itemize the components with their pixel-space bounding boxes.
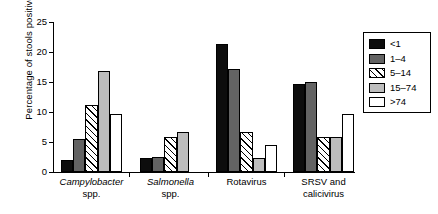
legend-item: 1–4 [369,52,430,67]
x-axis-line [53,172,355,173]
y-tick-mark [49,22,53,23]
legend-swatch [369,54,385,64]
bar [317,137,329,172]
bar [177,132,189,172]
bar [240,132,252,172]
y-tick-mark [49,52,53,53]
bar [110,114,122,172]
legend: <11–45–1415–74>74 [363,32,431,113]
category-label-line2: calicivirus [269,188,379,200]
y-tick-mark [49,112,53,113]
bar [330,137,342,172]
legend-item: 5–14 [369,66,430,81]
y-tick-label: 25 [23,17,47,26]
legend-swatch [369,83,385,93]
bar [216,44,228,172]
category-label-line2: spp. [116,188,226,200]
plot-area: 0510152025 [53,22,355,172]
y-tick-label: 0 [23,167,47,176]
legend-label: 5–14 [390,68,411,78]
bar [265,145,277,172]
legend-label: 15–74 [390,83,416,93]
legend-swatch [369,68,385,78]
category-label-line1: Salmonella [147,176,194,187]
y-tick-mark [49,142,53,143]
x-axis-category-label: SRSV andcalicivirus [269,176,379,199]
legend-item: >74 [369,95,430,110]
bar [305,82,317,172]
bar [61,160,73,172]
bar [164,137,176,172]
y-tick-mark [49,82,53,83]
bar [152,157,164,172]
bar [228,69,240,172]
bar [342,114,354,172]
y-tick-label: 15 [23,77,47,86]
legend-swatch [369,39,385,49]
legend-swatch [369,97,385,107]
legend-label: <1 [390,39,401,49]
y-tick-label: 10 [23,107,47,116]
legend-label: >74 [390,97,406,107]
bar [140,158,152,172]
legend-label: 1–4 [390,54,406,64]
category-label-line1: Rotavirus [226,176,266,187]
legend-item: <1 [369,37,430,52]
bar [253,158,265,172]
bar [73,139,85,172]
bar [85,105,97,172]
y-tick-label: 20 [23,47,47,56]
category-label-line1: SRSV and [301,176,345,187]
bar [293,84,305,172]
category-label-line1: Campylobacter [60,176,124,187]
bar-chart: Percentage of stools positive 0510152025… [0,0,438,214]
legend-item: 15–74 [369,81,430,96]
y-tick-label: 5 [23,137,47,146]
y-tick-mark [49,172,53,173]
bar [98,71,110,172]
